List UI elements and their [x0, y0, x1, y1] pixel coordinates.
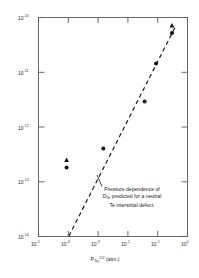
data-points-triangles: [64, 23, 174, 162]
y-tick-label-0: 10-10: [18, 14, 29, 21]
x-tick-label-4: 10-1: [151, 240, 160, 247]
y-tick-label-4: 10-14: [18, 233, 29, 240]
x-tick-label-2: 10-3: [91, 240, 100, 247]
x-tick-label-5: 100: [181, 240, 189, 247]
data-points-circles: [65, 31, 174, 170]
figure-plot-area: [0, 0, 199, 278]
x-tick-label-3: 10-2: [121, 240, 130, 247]
x-axis-title: PTe21/2 (atm.): [70, 256, 140, 264]
y-tick-label-3: 10-13: [18, 178, 29, 185]
y-tick-label-2: 10-12: [18, 124, 29, 131]
y-tick-label-1: 10-11: [18, 69, 29, 76]
plot-annotation: Pressure dependence of DTe predicted for…: [84, 186, 180, 210]
annotation-line-2: DTe predicted for a neutral: [84, 193, 180, 202]
x-tick-label-0: 10-5: [31, 240, 40, 247]
annotation-line-1: Pressure dependence of: [84, 186, 180, 193]
x-tick-label-1: 10-4: [61, 240, 70, 247]
annotation-line-3: Te interstitial defect.: [84, 202, 180, 209]
